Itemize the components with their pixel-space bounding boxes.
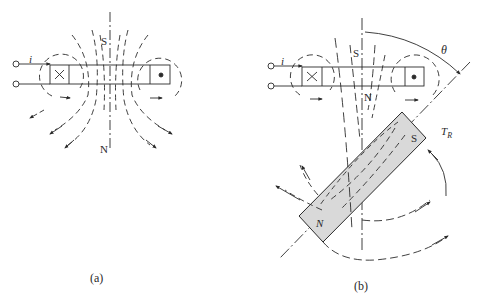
dot-symbol-icon xyxy=(159,73,163,77)
torque-arc xyxy=(432,154,446,196)
cross-symbol-icon xyxy=(307,72,317,81)
current-label-b: i xyxy=(281,56,284,67)
pole-top-label-b: S xyxy=(353,48,359,59)
terminal-top xyxy=(13,61,19,67)
dot-symbol-icon xyxy=(412,75,416,79)
angle-theta-label: θ xyxy=(441,44,447,56)
panel-a xyxy=(13,12,182,150)
panel-b xyxy=(268,18,470,260)
current-label-a: i xyxy=(29,54,32,65)
magnet-pole-s-label: S xyxy=(411,133,417,144)
diagram-canvas xyxy=(0,0,484,297)
terminal-bottom xyxy=(268,83,274,89)
torque-label: TR xyxy=(441,126,452,140)
magnet-pole-n-label: N xyxy=(316,218,323,229)
pole-bottom-label-b: N xyxy=(364,92,372,103)
cross-symbol-icon xyxy=(55,70,64,79)
caption-b: (b) xyxy=(354,280,368,292)
caption-a: (a) xyxy=(90,272,103,284)
pole-top-label-a: S xyxy=(101,36,107,47)
terminal-bottom xyxy=(13,81,19,87)
torque-subscript: R xyxy=(447,131,452,140)
pole-bottom-label-a: N xyxy=(100,144,108,155)
terminal-top xyxy=(268,63,274,69)
coil-bar xyxy=(302,67,424,86)
